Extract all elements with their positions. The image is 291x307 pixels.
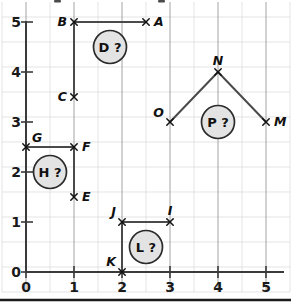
bubble-label-D: D ? [99, 40, 122, 55]
point-label-A: A [153, 14, 164, 29]
coordinate-grid-figure: ABCEFGIJKMNO D ?H ?L ?P ? 012345012345 [0, 0, 291, 307]
x-tick-label-0: 0 [21, 279, 31, 295]
bubble-label-P: P ? [207, 115, 229, 130]
x-tick-label-2: 2 [117, 279, 127, 295]
point-label-B: B [57, 14, 67, 29]
x-tick-label-3: 3 [165, 279, 175, 295]
worksheet-canvas: ABCEFGIJKMNO D ?H ?L ?P ? 012345012345 [0, 0, 291, 307]
y-tick-label-4: 4 [11, 64, 21, 80]
point-label-N: N [213, 53, 224, 68]
y-tick-label-0: 0 [11, 264, 21, 280]
bubble-P: P ? [202, 106, 235, 139]
y-tick-label-3: 3 [11, 114, 21, 130]
y-tick-label-5: 5 [11, 14, 21, 30]
point-label-O: O [153, 105, 164, 120]
bubble-L: L ? [130, 231, 163, 264]
point-label-M: M [274, 114, 287, 129]
point-label-E: E [82, 189, 91, 204]
point-label-C: C [58, 89, 68, 104]
bubble-label-H: H ? [39, 165, 62, 180]
bubble-H: H ? [34, 156, 67, 189]
bubble-D: D ? [94, 31, 127, 64]
x-tick-label-1: 1 [69, 279, 79, 295]
point-label-G: G [32, 130, 42, 145]
bubble-label-L: L ? [136, 240, 156, 255]
point-label-K: K [106, 254, 117, 269]
point-label-I: I [168, 203, 173, 218]
x-tick-label-5: 5 [261, 279, 271, 295]
y-tick-label-2: 2 [11, 164, 21, 180]
x-tick-label-4: 4 [213, 279, 223, 295]
point-label-F: F [82, 139, 91, 154]
y-tick-label-1: 1 [11, 214, 21, 230]
